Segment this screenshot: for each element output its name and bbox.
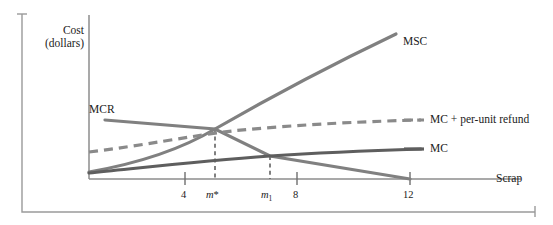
x-tick-label-m-one-letter: m	[261, 189, 269, 200]
x-tick-label-m-one: m1	[261, 189, 272, 203]
x-tick-label-m-star: m*	[206, 189, 219, 201]
figure-container: Cost (dollars) Scrap MSC MCR MC + per-un…	[0, 0, 553, 225]
x-tick-label-m-star-asterisk: *	[214, 189, 219, 200]
x-tick-label-m-star-letter: m	[206, 189, 214, 200]
y-axis-title-line2: (dollars)	[14, 37, 84, 50]
curve-label-msc: MSC	[403, 35, 427, 48]
y-axis-title: Cost (dollars)	[14, 24, 84, 50]
equilibrium-drop-lines	[215, 129, 270, 179]
curve-label-mc: MC	[430, 142, 448, 155]
curve-label-mc-plus-refund: MC + per-unit refund	[430, 113, 529, 126]
x-tick-label-12: 12	[403, 189, 414, 201]
curve-label-mcr: MCR	[89, 103, 115, 116]
x-tick-label-m-one-subscript: 1	[269, 194, 273, 203]
x-axis-title: Scrap	[496, 172, 522, 185]
x-tick-label-4: 4	[181, 189, 186, 201]
y-axis-title-line1: Cost	[14, 24, 84, 37]
x-tick-label-8: 8	[293, 189, 298, 201]
legend-swatches	[404, 120, 424, 149]
